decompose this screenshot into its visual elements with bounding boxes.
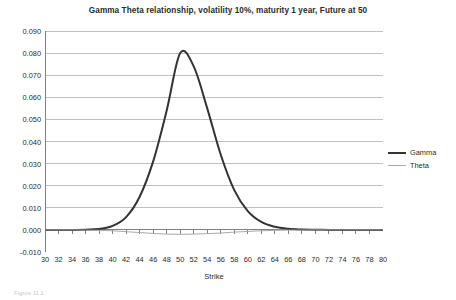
- x-tick-label: 40: [108, 255, 116, 264]
- y-tick-label: 0.040: [0, 137, 41, 146]
- x-tick-label: 68: [298, 255, 306, 264]
- x-tick-label: 76: [352, 255, 360, 264]
- x-tick-label: 64: [271, 255, 279, 264]
- y-tick-label: 0.080: [0, 49, 41, 58]
- x-tick-label: 66: [284, 255, 292, 264]
- x-tick-label: 36: [81, 255, 89, 264]
- legend-swatch-gamma-icon: [388, 152, 406, 154]
- y-tick-label: -0.010: [0, 248, 41, 257]
- legend-item-gamma[interactable]: Gamma: [388, 146, 456, 159]
- plot-area: [45, 31, 383, 252]
- legend-item-theta[interactable]: Theta: [388, 159, 456, 172]
- x-tick-label: 30: [41, 255, 49, 264]
- x-tick-label: 38: [95, 255, 103, 264]
- x-tick-label: 74: [338, 255, 346, 264]
- y-tick-label: 0.050: [0, 115, 41, 124]
- y-tick-label: 0.010: [0, 203, 41, 212]
- y-axis: 0.0900.0800.0700.0600.0500.0400.0300.020…: [0, 31, 41, 252]
- x-axis-title: Strike: [45, 272, 383, 281]
- legend-swatch-theta-icon: [388, 165, 406, 166]
- x-tick-label: 78: [365, 255, 373, 264]
- y-tick-label: 0.070: [0, 71, 41, 80]
- gamma-theta-line-chart: Gamma Theta relationship, volatility 10%…: [0, 0, 456, 300]
- x-tick-label: 48: [163, 255, 171, 264]
- x-tick-label: 70: [311, 255, 319, 264]
- chart-legend: GammaTheta: [388, 146, 456, 172]
- x-tick-label: 80: [379, 255, 387, 264]
- y-tick-label: 0.090: [0, 27, 41, 36]
- x-tick-label: 60: [244, 255, 252, 264]
- series-line-gamma: [45, 51, 383, 230]
- chart-title: Gamma Theta relationship, volatility 10%…: [0, 6, 456, 15]
- legend-label: Theta: [410, 161, 429, 170]
- x-tick-label: 72: [325, 255, 333, 264]
- y-tick-label: 0.020: [0, 181, 41, 190]
- legend-label: Gamma: [410, 148, 436, 157]
- footer-caption: Figure 11.1: [14, 290, 44, 299]
- plot-svg: [45, 31, 383, 252]
- x-tick-label: 52: [190, 255, 198, 264]
- x-tick-label: 34: [68, 255, 76, 264]
- y-tick-label: 0.000: [0, 225, 41, 234]
- x-tick-label: 50: [176, 255, 184, 264]
- x-tick-label: 32: [54, 255, 62, 264]
- x-tick-label: 54: [203, 255, 211, 264]
- x-tick-label: 46: [149, 255, 157, 264]
- x-tick-label: 56: [217, 255, 225, 264]
- x-tick-label: 44: [136, 255, 144, 264]
- x-tick-label: 62: [257, 255, 265, 264]
- x-tick-label: 42: [122, 255, 130, 264]
- x-tick-label: 58: [230, 255, 238, 264]
- x-axis: 3032343638404244464850525456586062646668…: [45, 255, 383, 267]
- y-tick-label: 0.060: [0, 93, 41, 102]
- y-tick-label: 0.030: [0, 159, 41, 168]
